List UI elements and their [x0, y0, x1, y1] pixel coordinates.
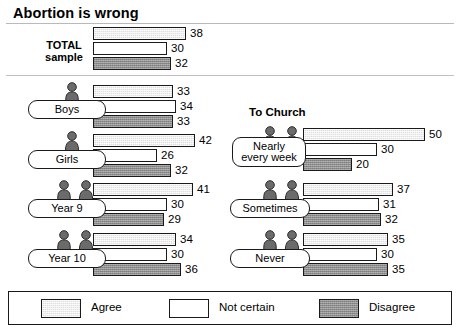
value-nearly-notcertain: 30: [381, 143, 394, 156]
bar-nearly-notcertain: [303, 143, 377, 156]
bar-boys-disagree: [93, 115, 173, 128]
group-label-never-text: Never: [231, 253, 309, 265]
group-label-year10-text: Year 10: [29, 253, 105, 265]
legend-item-disagree: Disagree: [319, 299, 460, 318]
bar-total-disagree: [93, 57, 171, 70]
legend-label-disagree: Disagree: [369, 301, 415, 313]
value-year9-notcertain: 30: [171, 198, 184, 211]
bar-never-notcertain: [303, 248, 377, 261]
bar-boys-agree: [93, 85, 173, 98]
group-label-nearly-line2: every week: [233, 152, 305, 164]
group-label-boys-text: Boys: [29, 104, 105, 116]
chart-title: Abortion is wrong: [13, 5, 139, 21]
group-label-never: Never: [230, 249, 310, 268]
value-total-notcertain: 30: [171, 42, 184, 55]
value-boys-disagree: 33: [177, 115, 190, 128]
group-label-girls-text: Girls: [29, 154, 105, 166]
legend: Agree Not certain Disagree: [8, 291, 452, 325]
bar-nearly-agree: [303, 128, 425, 141]
value-nearly-disagree: 20: [356, 158, 369, 171]
legend-swatch-disagree: [319, 299, 359, 318]
value-sometimes-disagree: 32: [385, 213, 398, 226]
bar-total-notcertain: [93, 42, 167, 55]
group-label-year9: Year 9: [28, 199, 106, 218]
value-girls-disagree: 32: [175, 164, 188, 177]
value-year9-agree: 41: [197, 183, 210, 196]
group-label-boys: Boys: [28, 100, 106, 119]
legend-label-agree: Agree: [91, 301, 122, 313]
value-never-notcertain: 30: [381, 248, 394, 261]
value-boys-agree: 33: [177, 85, 190, 98]
group-label-year9-text: Year 9: [29, 203, 105, 215]
bar-sometimes-notcertain: [303, 198, 379, 211]
group-label-sometimes-text: Sometimes: [231, 203, 309, 215]
bar-sometimes-agree: [303, 183, 393, 196]
bar-nearly-disagree: [303, 158, 352, 171]
value-total-disagree: 32: [175, 57, 188, 70]
bar-total-agree: [93, 27, 186, 40]
value-sometimes-notcertain: 31: [383, 198, 396, 211]
total-section-divider: [6, 75, 454, 76]
bar-year9-agree: [93, 183, 193, 196]
group-label-girls: Girls: [28, 150, 106, 169]
value-girls-agree: 42: [199, 134, 212, 147]
legend-item-not-certain: Not certain: [169, 299, 339, 318]
bar-girls-disagree: [93, 164, 171, 177]
value-year10-agree: 34: [180, 233, 193, 246]
bar-year10-disagree: [93, 263, 181, 276]
group-label-year10: Year 10: [28, 249, 106, 268]
legend-swatch-not-certain: [169, 299, 209, 318]
value-total-agree: 38: [190, 27, 203, 40]
bar-never-agree: [303, 233, 388, 246]
chart-container: Abortion is wrong TOTAL sample 38 30 32 …: [0, 0, 460, 332]
legend-swatch-agree: [41, 299, 81, 318]
bar-sometimes-disagree: [303, 213, 381, 226]
value-never-disagree: 35: [392, 263, 405, 276]
bar-year10-agree: [93, 233, 176, 246]
group-label-total-line2: sample: [36, 52, 92, 64]
group-label-total-line1: TOTAL: [36, 40, 92, 52]
group-label-sometimes: Sometimes: [230, 199, 310, 218]
bar-girls-agree: [93, 134, 195, 147]
group-label-total: TOTAL sample: [36, 40, 92, 68]
church-section-heading: To Church: [249, 106, 306, 118]
legend-label-not-certain: Not certain: [219, 301, 275, 313]
value-year10-disagree: 36: [185, 263, 198, 276]
title-divider: [6, 23, 454, 24]
value-year9-disagree: 29: [168, 213, 181, 226]
value-never-agree: 35: [392, 233, 405, 246]
value-sometimes-agree: 37: [397, 183, 410, 196]
value-nearly-agree: 50: [429, 128, 442, 141]
bar-never-disagree: [303, 263, 388, 276]
group-label-nearly-every-week: Nearly every week: [232, 137, 306, 167]
value-year10-notcertain: 30: [171, 248, 184, 261]
value-girls-notcertain: 26: [161, 149, 174, 162]
value-boys-notcertain: 34: [180, 100, 193, 113]
